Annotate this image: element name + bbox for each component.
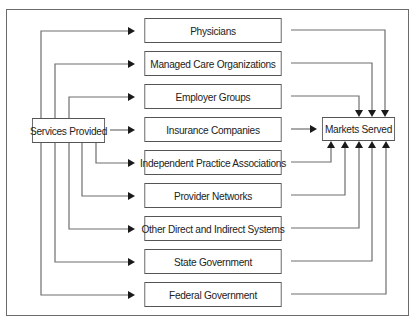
ipa-to-markets-connector bbox=[291, 141, 335, 162]
arrow-head-icon bbox=[341, 141, 349, 148]
insurance-to-markets-connector bbox=[291, 125, 317, 133]
arrow-head-icon bbox=[128, 291, 135, 299]
arrow-head-icon bbox=[327, 141, 335, 148]
state-government-to-markets-connector bbox=[291, 141, 376, 261]
channel-label: Insurance Companies bbox=[166, 124, 259, 136]
other-systems-to-markets-connector bbox=[291, 141, 363, 228]
channel-label: Independent Practice Associations bbox=[140, 157, 286, 169]
arrow-head-icon bbox=[368, 141, 376, 148]
state-government-node: State Government bbox=[144, 249, 281, 274]
insurance-companies-node: Insurance Companies bbox=[144, 117, 281, 142]
arrow-head-icon bbox=[128, 93, 135, 101]
source-to-other-systems-connector bbox=[69, 143, 135, 233]
channel-label: Managed Care Organizations bbox=[150, 58, 275, 70]
channel-label: Federal Government bbox=[169, 289, 257, 301]
source-to-ipa-connector bbox=[96, 143, 135, 167]
federal-government-to-markets-connector bbox=[291, 141, 390, 294]
arrow-head-icon bbox=[368, 110, 376, 117]
arrow-head-icon bbox=[128, 159, 135, 167]
channel-label: Provider Networks bbox=[174, 190, 252, 202]
arrow-head-icon bbox=[355, 141, 363, 148]
arrow-head-icon bbox=[310, 125, 317, 133]
channel-label: Physicians bbox=[190, 25, 236, 37]
source-to-employer-groups-connector bbox=[69, 93, 135, 118]
services-provided-node: Services Provided bbox=[32, 118, 105, 143]
federal-government-node: Federal Government bbox=[144, 282, 281, 307]
managed-care-to-markets-connector bbox=[291, 63, 376, 117]
arrow-head-icon bbox=[128, 126, 135, 134]
arrow-head-icon bbox=[355, 110, 363, 117]
arrow-head-icon bbox=[128, 225, 135, 233]
source-to-provider-networks-connector bbox=[82, 143, 135, 200]
markets-served-node: Markets Served bbox=[322, 117, 395, 141]
services-provided-label: Services Provided bbox=[30, 125, 107, 137]
arrow-head-icon bbox=[382, 141, 390, 148]
source-to-insurance-connector bbox=[110, 126, 135, 134]
arrow-head-icon bbox=[128, 27, 135, 35]
independent-practice-associations-node: Independent Practice Associations bbox=[144, 150, 281, 175]
physicians-node: Physicians bbox=[144, 18, 281, 43]
other-direct-indirect-systems-node: Other Direct and Indirect Systems bbox=[144, 216, 281, 241]
channel-label: Other Direct and Indirect Systems bbox=[141, 223, 284, 235]
arrow-head-icon bbox=[128, 192, 135, 200]
employer-groups-node: Employer Groups bbox=[144, 84, 281, 109]
managed-care-organizations-node: Managed Care Organizations bbox=[144, 51, 281, 76]
source-to-managed-care-connector bbox=[55, 60, 135, 118]
provider-networks-to-markets-connector bbox=[291, 141, 349, 195]
source-to-state-government-connector bbox=[55, 143, 135, 266]
physicians-to-markets-connector bbox=[291, 30, 389, 117]
arrow-head-icon bbox=[128, 60, 135, 68]
channel-label: Employer Groups bbox=[176, 91, 251, 103]
arrow-head-icon bbox=[128, 258, 135, 266]
provider-networks-node: Provider Networks bbox=[144, 183, 281, 208]
markets-served-label: Markets Served bbox=[325, 123, 392, 135]
employer-groups-to-markets-connector bbox=[291, 96, 363, 117]
channel-label: State Government bbox=[174, 256, 252, 268]
arrow-head-icon bbox=[381, 110, 389, 117]
